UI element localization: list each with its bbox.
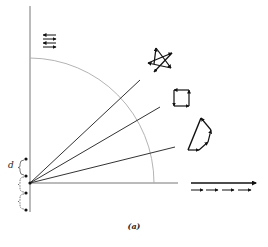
aligned-arrows-icon: [191, 183, 256, 190]
square-loop-icon: [174, 90, 189, 106]
star-polygon-icon: [148, 48, 172, 72]
alternating-arrows-icon: [43, 35, 56, 47]
open-polygon-icon: [188, 118, 211, 150]
ray-2: [30, 107, 160, 183]
spacing-brackets: [18, 160, 24, 209]
source-dots: [24, 157, 27, 211]
origin-point: [28, 181, 31, 184]
quarter-arc: [30, 58, 154, 183]
interference-diagram: [0, 0, 268, 247]
ray-3: [30, 147, 175, 183]
figure-caption: (a): [0, 221, 268, 231]
ray-1: [30, 80, 140, 183]
spacing-label: d: [8, 160, 14, 170]
